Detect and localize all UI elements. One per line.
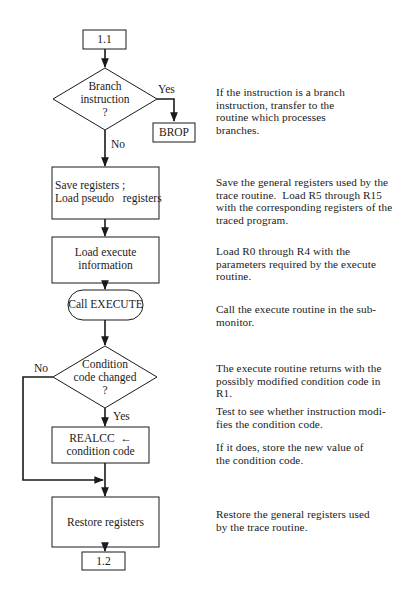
call-execute-label: Call EXECUTE xyxy=(68,298,143,311)
load-execute-line-2: information xyxy=(52,259,159,272)
description-line: Call the execute routine in the sub- xyxy=(216,303,406,316)
description-call: Call the execute routine in the sub- mon… xyxy=(216,303,406,328)
description-returns: The execute routine returns with the pos… xyxy=(216,362,406,400)
description-line: possibly modified condition code in xyxy=(216,375,406,388)
description-line: with the corresponding registers of the xyxy=(216,201,406,214)
load-execute-line-1: Load execute xyxy=(52,246,159,259)
description-line: routine. xyxy=(216,270,406,283)
realcc-line-1: REALCC ← xyxy=(52,432,149,445)
cc-yes-label: Yes xyxy=(113,410,130,423)
description-line: If the instruction is a branch xyxy=(216,86,406,99)
branch-decision-label: Branch instruction ? xyxy=(55,80,155,119)
description-line: traced program. xyxy=(216,214,406,227)
description-line: monitor. xyxy=(216,316,406,329)
branch-decision-line-3: ? xyxy=(55,106,155,119)
description-line: If it does, store the new value of xyxy=(216,441,406,454)
description-test: Test to see whether instruction modi- fi… xyxy=(216,405,406,430)
save-registers-label: Save registers ; Load pseudo registers xyxy=(55,179,162,205)
description-line: trace routine. Load R5 through R15 xyxy=(216,189,406,202)
branch-yes-label: Yes xyxy=(158,83,175,96)
description-line: R1. xyxy=(216,387,406,400)
save-registers-line-1: Save registers ; xyxy=(55,179,162,192)
branch-decision-line-2: instruction xyxy=(55,93,155,106)
description-line: parameters required by the execute xyxy=(216,258,406,271)
description-line: Load R0 through R4 with the xyxy=(216,245,406,258)
save-registers-line-2: Load pseudo registers xyxy=(55,192,162,205)
description-line: instruction, transfer to the xyxy=(216,99,406,112)
realcc-label: REALCC ← condition code xyxy=(52,432,149,458)
description-restore: Restore the general registers used by th… xyxy=(216,508,406,533)
description-load: Load R0 through R4 with the parameters r… xyxy=(216,245,406,283)
start-label: 1.1 xyxy=(83,33,126,46)
cc-decision-line-2: code changed xyxy=(55,371,155,384)
description-line: by the trace routine. xyxy=(216,521,406,534)
cc-decision-line-1: Condition xyxy=(55,358,155,371)
description-line: Restore the general registers used xyxy=(216,508,406,521)
description-line: fies the condition code. xyxy=(216,418,406,431)
restore-registers-label: Restore registers xyxy=(52,516,159,529)
description-branch: If the instruction is a branch instructi… xyxy=(216,86,406,136)
load-execute-label: Load execute information xyxy=(52,246,159,272)
realcc-line-2: condition code xyxy=(52,445,149,458)
description-line: branches. xyxy=(216,124,406,137)
branch-decision-line-1: Branch xyxy=(55,80,155,93)
description-line: The execute routine returns with the xyxy=(216,362,406,375)
description-line: Test to see whether instruction modi- xyxy=(216,405,406,418)
cc-decision-line-3: ? xyxy=(55,384,155,397)
description-line: routine which processes xyxy=(216,111,406,124)
condition-code-decision-label: Condition code changed ? xyxy=(55,358,155,397)
description-line: the condition code. xyxy=(216,454,406,467)
description-save: Save the general registers used by the t… xyxy=(216,176,406,226)
branch-no-label: No xyxy=(111,138,125,151)
brop-label: BROP xyxy=(153,126,195,139)
cc-no-label: No xyxy=(34,362,48,375)
description-line: Save the general registers used by the xyxy=(216,176,406,189)
description-store: If it does, store the new value of the c… xyxy=(216,441,406,466)
end-label: 1.2 xyxy=(82,555,125,568)
